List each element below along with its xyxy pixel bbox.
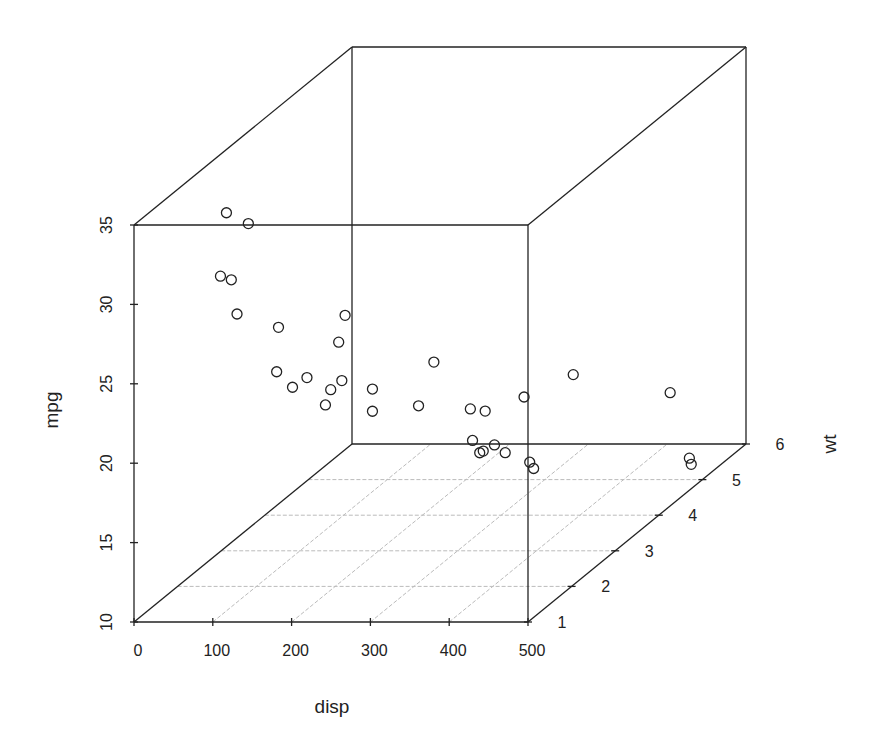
data-point (367, 384, 377, 394)
tick-labels: 0100200300400500101520253035123456 (98, 216, 785, 659)
z-tick-label: 3 (645, 543, 654, 560)
bounding-box (134, 47, 746, 622)
floor-grid (178, 444, 703, 622)
z-tick-label: 2 (601, 578, 610, 595)
data-point (215, 271, 225, 281)
data-point (465, 404, 475, 414)
x-tick-label: 500 (519, 642, 546, 659)
data-point (274, 322, 284, 332)
x-tick-label: 0 (134, 642, 143, 659)
z-tick-label: 5 (732, 472, 741, 489)
data-point (326, 385, 336, 395)
data-point (320, 400, 330, 410)
data-point (243, 219, 253, 229)
x-tick-label: 200 (282, 642, 309, 659)
data-point (500, 448, 510, 458)
data-point (478, 446, 488, 456)
data-point (340, 310, 350, 320)
x-tick-label: 100 (203, 642, 230, 659)
y-tick-label: 20 (98, 454, 115, 472)
z-tick-label: 4 (688, 507, 697, 524)
data-point (337, 376, 347, 386)
data-point (288, 382, 298, 392)
y-tick-label: 25 (98, 375, 115, 393)
axis-ticks (130, 225, 750, 626)
data-point (686, 459, 696, 469)
data-point (272, 367, 282, 377)
z-axis-title: wt (819, 434, 840, 455)
data-point (367, 406, 377, 416)
data-points (215, 208, 696, 474)
data-point (429, 357, 439, 367)
x-axis-title: disp (315, 696, 350, 717)
data-point (334, 337, 344, 347)
data-point (665, 388, 675, 398)
y-tick-label: 10 (98, 613, 115, 631)
data-point (684, 453, 694, 463)
data-point (221, 208, 231, 218)
x-tick-label: 300 (361, 642, 388, 659)
data-point (302, 373, 312, 383)
z-tick-label: 1 (558, 614, 567, 631)
y-tick-label: 15 (98, 534, 115, 552)
x-tick-label: 400 (440, 642, 467, 659)
data-point (232, 309, 242, 319)
scatter3d-plot: 0100200300400500101520253035123456 disp … (0, 0, 880, 746)
data-point (480, 406, 490, 416)
data-point (226, 275, 236, 285)
y-tick-label: 35 (98, 216, 115, 234)
data-point (489, 440, 499, 450)
data-point (414, 401, 424, 411)
y-axis-title: mpg (41, 392, 62, 429)
data-point (568, 370, 578, 380)
z-tick-label: 6 (776, 436, 785, 453)
y-tick-label: 30 (98, 295, 115, 313)
